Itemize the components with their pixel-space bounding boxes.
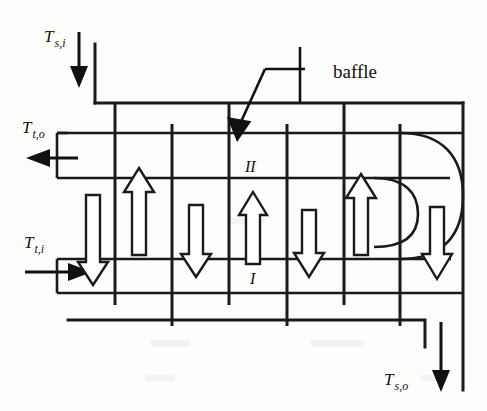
shell-outlet-arrowhead xyxy=(432,370,450,392)
baffle-leader-diagonal xyxy=(240,69,265,124)
shell-flow-up-3 xyxy=(346,174,376,255)
shell-bottom-wall xyxy=(68,320,425,347)
baffle-leader-arrowhead xyxy=(227,109,257,142)
label-shell-inlet-sub: s,i xyxy=(54,36,65,50)
label-shell-outlet-sub: s,o xyxy=(394,379,408,393)
shell-flow-up-1 xyxy=(124,168,154,255)
tube-flow-down-2 xyxy=(181,205,211,277)
label-tube-inlet: Tt,i xyxy=(24,233,44,256)
label-tube-inlet-main: T xyxy=(24,233,35,252)
label-shell-inlet: Ts,i xyxy=(44,27,65,50)
label-shell-inlet-main: T xyxy=(44,27,55,46)
label-shell-outlet-main: T xyxy=(384,370,395,389)
heat-exchanger-diagram: Ts,i Tt,o Tt,i Ts,o baffle II I xyxy=(0,0,487,411)
label-shell-outlet: Ts,o xyxy=(384,370,408,393)
tube-outlet-arrowhead xyxy=(26,149,50,167)
label-pass-one: I xyxy=(249,270,256,287)
label-tube-outlet-sub: t,o xyxy=(32,127,44,141)
figure-canvas: Ts,i Tt,o Tt,i Ts,o baffle II I xyxy=(0,0,487,411)
label-pass-two: II xyxy=(244,158,256,175)
u-bend-inner xyxy=(374,178,418,247)
label-baffle: baffle xyxy=(333,61,377,82)
tube-flow-down-3 xyxy=(294,210,324,277)
label-tube-inlet-sub: t,i xyxy=(34,242,44,256)
shell-flow-up-2 xyxy=(239,192,267,264)
label-tube-outlet: Tt,o xyxy=(22,118,45,141)
shell-inlet-arrowhead xyxy=(70,66,88,88)
label-tube-outlet-main: T xyxy=(22,118,33,137)
